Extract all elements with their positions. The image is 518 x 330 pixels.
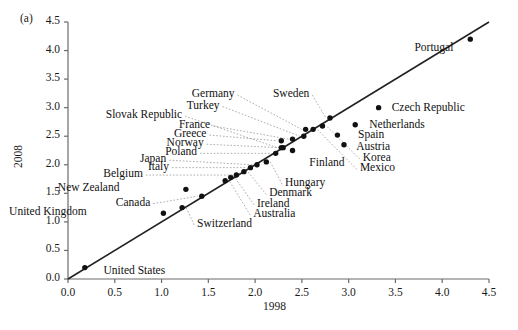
- data-point[interactable]: [290, 148, 295, 153]
- data-point[interactable]: [303, 127, 308, 132]
- label-leader-line: [229, 181, 250, 215]
- data-point[interactable]: [264, 159, 269, 164]
- data-point-label: Korea: [363, 151, 391, 163]
- data-point-label: New Zealand: [58, 181, 120, 193]
- x-tick-label: 3.0: [337, 286, 361, 298]
- data-point[interactable]: [254, 162, 259, 167]
- label-leader-line: [223, 107, 300, 137]
- x-tick-label: 4.5: [477, 286, 501, 298]
- label-leader-line: [235, 177, 254, 204]
- y-tick-label: 2.5: [32, 128, 60, 140]
- data-point[interactable]: [327, 115, 332, 120]
- data-point-label: Sweden: [273, 87, 309, 99]
- y-tick-label: 2.0: [32, 157, 60, 169]
- data-point-label: Austria: [356, 140, 390, 152]
- data-point-label: Belgium: [103, 167, 143, 179]
- label-leader-line: [169, 160, 253, 165]
- data-point-label: Australia: [253, 207, 295, 219]
- y-tick-label: 3.5: [32, 71, 60, 83]
- data-point[interactable]: [320, 123, 325, 128]
- x-tick-label: 4.0: [430, 286, 454, 298]
- y-tick-label: 0.0: [32, 271, 60, 283]
- data-point-label: France: [179, 118, 210, 130]
- data-point[interactable]: [468, 36, 473, 41]
- data-point-label: Spain: [358, 128, 384, 140]
- data-point[interactable]: [290, 136, 295, 141]
- data-point[interactable]: [199, 193, 204, 198]
- data-point[interactable]: [82, 265, 87, 270]
- x-tick-label: 2.0: [243, 286, 267, 298]
- data-point[interactable]: [376, 105, 381, 110]
- panel-label: (a): [20, 12, 33, 24]
- y-tick-label: 4.0: [32, 43, 60, 55]
- y-tick-label: 0.5: [32, 242, 60, 254]
- data-point[interactable]: [301, 134, 306, 139]
- x-tick-label: 0.5: [103, 286, 127, 298]
- data-point-label: Finland: [309, 156, 344, 168]
- figure-panel: (a) 1998 2008 0.00.51.01.52.02.53.03.54.…: [0, 0, 518, 330]
- data-point[interactable]: [179, 205, 184, 210]
- data-point[interactable]: [228, 175, 233, 180]
- x-tick-label: 0.0: [56, 286, 80, 298]
- data-point-label: Portugal: [414, 41, 453, 53]
- data-point[interactable]: [183, 187, 188, 192]
- y-tick-label: 4.5: [32, 14, 60, 26]
- data-point-label: Japan: [140, 152, 166, 164]
- data-point[interactable]: [273, 151, 278, 156]
- label-leader-line: [270, 162, 282, 184]
- data-point-label: United Kingdom: [9, 205, 87, 217]
- data-point[interactable]: [222, 178, 227, 183]
- data-point[interactable]: [234, 172, 239, 177]
- data-point[interactable]: [341, 142, 346, 147]
- y-axis-title: 2008: [12, 145, 24, 168]
- data-point[interactable]: [279, 145, 284, 150]
- label-leader-line: [186, 208, 194, 225]
- data-point-label: Mexico: [360, 161, 395, 173]
- data-point-label: Ireland: [257, 197, 290, 209]
- data-point-label: Netherlands: [369, 118, 425, 130]
- data-point-label: Czech Republic: [392, 101, 465, 113]
- data-point-label: Turkey: [187, 99, 220, 111]
- data-point-label: Canada: [116, 196, 150, 208]
- data-point-label: Denmark: [269, 186, 312, 198]
- data-point-label: Switzerland: [197, 217, 252, 229]
- data-point-label: Germany: [192, 87, 235, 99]
- y-tick-label: 3.0: [32, 100, 60, 112]
- y-tick-label: 1.5: [32, 185, 60, 197]
- data-point[interactable]: [335, 132, 340, 137]
- data-point[interactable]: [353, 122, 358, 127]
- data-point-label: United States: [104, 264, 166, 276]
- label-leader-line: [207, 144, 280, 147]
- data-point[interactable]: [310, 127, 315, 132]
- data-point[interactable]: [279, 138, 284, 143]
- x-tick-label: 1.0: [150, 286, 174, 298]
- label-leader-line: [312, 95, 326, 118]
- x-axis-title: 1998: [263, 300, 286, 312]
- data-point-label: Slovak Republic: [106, 108, 182, 120]
- label-leader-line: [238, 95, 302, 129]
- data-point-label: Hungary: [285, 176, 325, 188]
- label-leader-line: [153, 196, 197, 203]
- x-tick-label: 2.5: [290, 286, 314, 298]
- data-point[interactable]: [161, 211, 166, 216]
- identity-reference-line: [68, 22, 489, 279]
- x-tick-label: 3.5: [383, 286, 407, 298]
- data-point[interactable]: [248, 165, 253, 170]
- x-tick-label: 1.5: [196, 286, 220, 298]
- label-leader-line: [248, 172, 266, 195]
- data-point[interactable]: [241, 169, 246, 174]
